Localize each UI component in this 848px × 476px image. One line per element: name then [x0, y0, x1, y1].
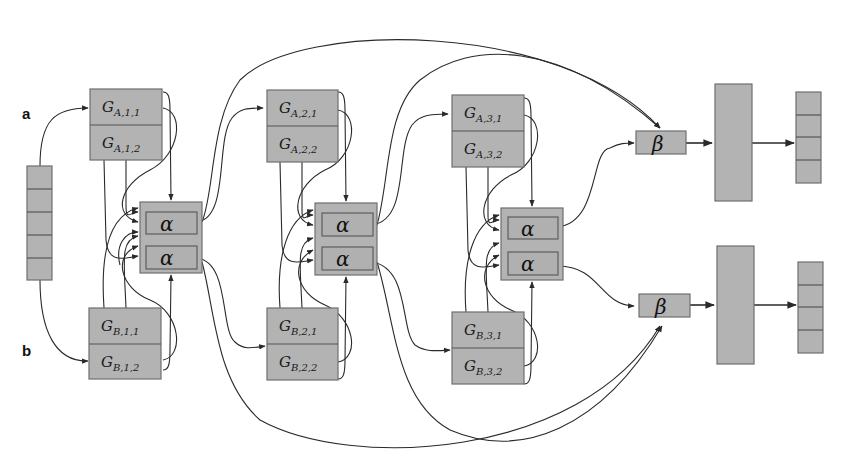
alpha-1-bottom-symbol: α [160, 246, 174, 270]
gate-b-1-2-subscript: B,1,2 [112, 362, 139, 373]
gate-block-b-1: GB,1,1 GB,1,2 [89, 308, 161, 379]
gate-b-3-1-symbol: G [464, 321, 476, 339]
beta-block-2: β [639, 294, 690, 319]
gate-a-2-1-symbol: G [279, 99, 291, 117]
beta-1-symbol: β [651, 132, 664, 156]
gate-a-2-2-subscript: A,2,2 [290, 144, 317, 155]
multi-task-gating-network-diagram: a b [0, 0, 848, 476]
gate-b-2-2-symbol: G [279, 353, 291, 371]
alpha-2-bottom-symbol: α [336, 247, 350, 271]
gate-a-3-1-symbol: G [464, 104, 476, 122]
gate-block-b-2: GB,2,1 GB,2,2 [267, 308, 338, 380]
gate-block-a-1: GA,1,1 GA,1,2 [90, 89, 162, 160]
input-vector [27, 166, 52, 280]
alpha-block-1: α α [140, 202, 202, 273]
output-vector-b [798, 262, 823, 353]
panel-label-a: a [22, 105, 31, 122]
dense-layer-a [715, 84, 752, 201]
alpha-block-2: α α [315, 203, 377, 275]
gate-b-3-1-subscript: B,3,1 [475, 330, 502, 341]
gate-block-b-3: GB,3,1 GB,3,2 [452, 312, 524, 384]
gate-a-2-1-subscript: A,2,1 [290, 108, 317, 119]
gate-block-a-3: GA,3,1 GA,3,2 [452, 95, 524, 167]
gate-b-1-1-symbol: G [101, 317, 113, 335]
output-vector-a [796, 92, 821, 183]
gate-a-1-2-symbol: G [102, 134, 114, 152]
gate-b-1-1-subscript: B,1,1 [112, 326, 139, 337]
gate-b-1-2-symbol: G [101, 353, 113, 371]
gate-b-2-2-subscript: B,2,2 [290, 362, 317, 373]
beta-2-symbol: β [654, 295, 667, 319]
gate-block-a-2: GA,2,1 GA,2,2 [267, 90, 338, 162]
beta-block-1: β [636, 131, 686, 156]
gate-a-1-1-symbol: G [102, 98, 114, 116]
gate-a-1-2-subscript: A,1,2 [113, 143, 140, 154]
panel-label-b: b [22, 342, 31, 359]
gate-a-3-2-subscript: A,3,2 [475, 149, 502, 160]
gate-b-3-2-subscript: B,3,2 [475, 366, 502, 377]
alpha-2-top-symbol: α [336, 213, 350, 237]
gate-a-3-1-subscript: A,3,1 [475, 113, 502, 124]
gate-b-2-1-symbol: G [279, 317, 291, 335]
alpha-3-top-symbol: α [521, 217, 535, 241]
alpha-1-top-symbol: α [160, 212, 174, 236]
dense-layer-b [717, 246, 754, 364]
gate-a-3-2-symbol: G [464, 140, 476, 158]
gate-b-3-2-symbol: G [464, 357, 476, 375]
gate-a-2-2-symbol: G [279, 135, 291, 153]
gate-a-1-1-subscript: A,1,1 [113, 107, 140, 118]
alpha-3-bottom-symbol: α [521, 252, 535, 276]
alpha-block-3: α α [501, 208, 563, 280]
gate-b-2-1-subscript: B,2,1 [290, 326, 317, 337]
